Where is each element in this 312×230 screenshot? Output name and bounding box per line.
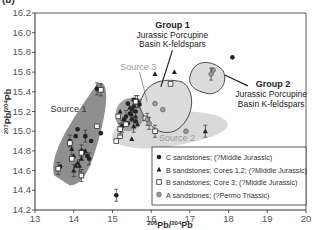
legend-marker xyxy=(157,180,162,185)
y-tick-label: 15.2 xyxy=(13,106,32,117)
legend-marker xyxy=(157,155,162,160)
b-sandstones-core3-point xyxy=(95,124,100,129)
b-sandstones-core3-point xyxy=(56,166,61,171)
c-sandstones-point xyxy=(133,109,138,114)
group-1-label: Group 1 xyxy=(155,20,190,30)
c-sandstones-point xyxy=(73,134,78,139)
y-tick-label: 14.2 xyxy=(13,204,32,215)
b-sandstones-core3-point xyxy=(69,156,74,161)
group-2-field xyxy=(190,62,225,93)
y-tick-label: 15.0 xyxy=(13,125,32,136)
source-1-label: Source 1 xyxy=(50,104,86,114)
y-tick-label: 15.4 xyxy=(13,86,32,97)
a-sandstones-point xyxy=(153,101,158,106)
x-tick-label: 14 xyxy=(68,213,79,224)
y-tick-label: 14.6 xyxy=(13,165,32,176)
y-tick-label: 15.6 xyxy=(13,66,32,77)
b-sandstones-core3-point xyxy=(116,114,121,119)
x-tick-label: 15 xyxy=(107,213,118,224)
b-sandstones-core3-point xyxy=(79,151,84,156)
b-sandstones-core3-point xyxy=(99,88,104,93)
a-sandstones-point xyxy=(209,72,214,77)
a-sandstones-point xyxy=(147,121,152,126)
group-1-desc: Jurassic Porcupine xyxy=(137,30,209,40)
legend-item-label: A sandstones; (?Permo Triassic) xyxy=(166,191,269,200)
b-sandstones-core3-point xyxy=(114,139,119,144)
c-sandstones-point xyxy=(114,193,119,198)
c-sandstones-point xyxy=(83,134,88,139)
chart-container: (b) 131415161718192014.214.414.614.815.0… xyxy=(0,0,312,230)
c-sandstones-point xyxy=(126,101,131,106)
b-sandstones-cores12-point xyxy=(172,69,177,74)
legend-item-label: C sandstones; (?Middle Jurassic) xyxy=(166,153,272,162)
c-sandstones-point xyxy=(230,55,235,60)
group-2-label: Group 2 xyxy=(256,79,291,89)
x-tick-label: 19 xyxy=(262,213,273,224)
c-sandstones-point xyxy=(99,131,104,136)
y-axis-label: 207Pb/204Pb xyxy=(3,88,13,134)
x-tick-label: 13 xyxy=(30,213,41,224)
scatter-plot: 131415161718192014.214.414.614.815.015.2… xyxy=(0,0,312,230)
c-sandstones-point xyxy=(87,156,92,161)
source-2-label: Source 2 xyxy=(159,133,195,143)
b-sandstones-core3-point xyxy=(133,99,138,104)
group-2-desc: Jurassic Porcupine xyxy=(235,89,307,99)
y-tick-label: 16.0 xyxy=(13,27,32,38)
x-axis-label: 206Pb/204Pb xyxy=(147,220,193,230)
y-tick-label: 15.8 xyxy=(13,46,32,57)
y-tick-label: 14.4 xyxy=(13,184,32,195)
b-sandstones-core3-point xyxy=(153,129,158,134)
c-sandstones-point xyxy=(122,117,127,122)
y-tick-label: 16.2 xyxy=(13,7,32,18)
b-sandstones-core3-point xyxy=(124,122,129,127)
x-tick-label: 18 xyxy=(223,213,234,224)
group-2-desc: Basin K-feldspars xyxy=(238,99,305,109)
a-sandstones-point xyxy=(160,107,165,112)
source-3-label: Source 3 xyxy=(120,62,156,72)
b-sandstones-core3-point xyxy=(168,82,173,87)
group-1-desc: Basin K-feldspars xyxy=(139,39,206,49)
c-sandstones-point xyxy=(75,127,80,132)
b-sandstones-core3-point xyxy=(118,127,123,132)
legend-item-label: B sandstones; Cores 1,2; (?Middle Jurass… xyxy=(166,166,307,175)
b-sandstones-core3-point xyxy=(79,173,84,178)
y-tick-label: 14.8 xyxy=(13,145,32,156)
legend-item-label: B sandstones; Core 3; (?Middle Jurassic) xyxy=(166,178,297,187)
c-sandstones-point xyxy=(89,139,94,144)
x-tick-label: 20 xyxy=(301,213,312,224)
b-sandstones-core3-point xyxy=(68,141,73,146)
legend-marker xyxy=(157,192,162,197)
